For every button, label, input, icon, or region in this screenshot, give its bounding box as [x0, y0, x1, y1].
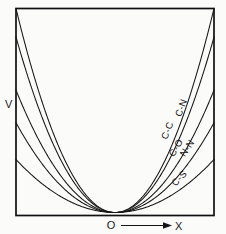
x-axis-label: X: [175, 220, 183, 232]
figure-container: C-CC-NC-ON-NC-S V O X: [0, 0, 226, 234]
origin-label: O: [107, 219, 116, 231]
curve-label-c-c: C-C: [159, 120, 176, 141]
y-axis-label: V: [5, 98, 13, 110]
potential-energy-plot: C-CC-NC-ON-NC-S V O X: [0, 0, 226, 234]
x-axis-arrow-icon: [121, 222, 172, 229]
curve-n-n: [16, 123, 214, 213]
curve-c-s: [16, 159, 214, 212]
curve-label-c-n: C-N: [173, 97, 190, 118]
